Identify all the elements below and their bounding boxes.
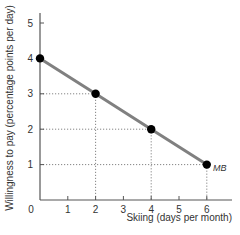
- x-axis-title: Skiing (days per month): [126, 212, 232, 223]
- y-tick-label: 1: [27, 159, 33, 170]
- mb-line: [40, 58, 207, 164]
- data-point: [147, 125, 155, 133]
- y-tick-label: 4: [27, 53, 33, 64]
- mb-chart: 123456 12345 0 MB Skiing (days per month…: [0, 0, 240, 235]
- data-point: [203, 160, 211, 168]
- y-axis-title: Willingness to pay (percentage points pe…: [4, 5, 15, 211]
- y-tick-label: 2: [27, 124, 33, 135]
- origin-label: 0: [28, 204, 34, 215]
- y-tick-label: 5: [27, 18, 33, 29]
- mb-series-label: MB: [213, 163, 227, 173]
- data-point: [91, 90, 99, 98]
- y-axis-ticks: 12345: [27, 18, 44, 171]
- x-tick-label: 1: [65, 204, 71, 215]
- y-tick-label: 3: [27, 88, 33, 99]
- x-tick-label: 2: [93, 204, 99, 215]
- data-point: [36, 54, 44, 62]
